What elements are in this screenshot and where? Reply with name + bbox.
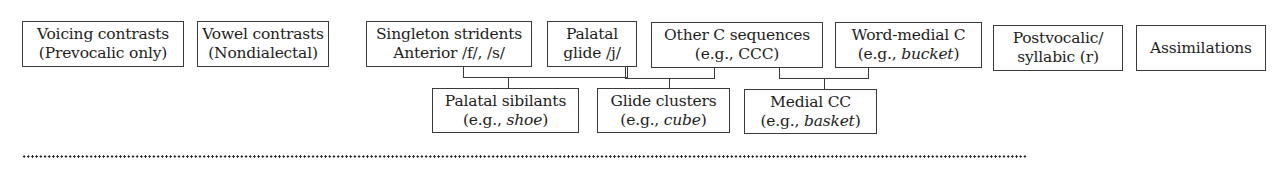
box-singleton-stridents: Singleton stridents Anterior /f/, /s/ — [366, 21, 532, 67]
box-other-c-sequences: Other C sequences (e.g., CCC) — [651, 22, 823, 68]
example-word: bucket — [901, 45, 953, 63]
box-label-line2: Anterior /f/, /s/ — [393, 44, 505, 63]
label-prefix: (e.g., — [620, 111, 663, 129]
label-prefix: (e.g., — [463, 111, 506, 129]
dotted-separator — [22, 155, 1027, 158]
label-suffix: ) — [855, 112, 861, 130]
box-assimilations: Assimilations — [1136, 25, 1266, 71]
box-label-line2: (Nondialectal) — [208, 44, 318, 63]
box-palatal-sibilants: Palatal sibilants (e.g., shoe) — [432, 88, 579, 133]
box-palatal-glide: Palatal glide /j/ — [547, 21, 637, 67]
box-label-line1: Word-medial C — [852, 26, 966, 45]
label-suffix: ) — [953, 45, 959, 63]
box-label-line1: Palatal — [566, 25, 618, 44]
label-suffix: ) — [542, 111, 548, 129]
box-label-line2: (e.g., shoe) — [463, 111, 548, 130]
box-label-line2: (Prevocalic only) — [39, 44, 167, 63]
label-prefix: (e.g., — [760, 112, 803, 130]
connector — [463, 77, 628, 78]
example-word: basket — [804, 112, 855, 130]
box-medial-cc: Medial CC (e.g., basket) — [744, 89, 877, 134]
box-label-line2: syllabic (r) — [1017, 48, 1098, 67]
box-label-line1: Medial CC — [770, 93, 851, 112]
box-label-line1: Vowel contrasts — [202, 25, 323, 44]
box-voicing-contrasts: Voicing contrasts (Prevocalic only) — [22, 21, 184, 67]
box-label-line1: Palatal sibilants — [445, 92, 566, 111]
box-label-line2: (e.g., cube) — [620, 111, 706, 130]
box-label-line1: Other C sequences — [664, 26, 810, 45]
box-label-line1: Postvocalic/ — [1013, 29, 1104, 48]
label-suffix: ) — [701, 111, 707, 129]
connector — [824, 78, 825, 89]
box-label-line1: Singleton stridents — [376, 25, 522, 44]
example-word: cube — [664, 111, 701, 129]
box-glide-clusters: Glide clusters (e.g., cube) — [597, 88, 730, 133]
box-word-medial-c: Word-medial C (e.g., bucket) — [835, 22, 982, 68]
box-label-line2: (e.g., CCC) — [695, 45, 779, 64]
example-word: shoe — [506, 111, 542, 129]
box-label-line2: (e.g., basket) — [760, 112, 860, 131]
box-label-line1: Voicing contrasts — [37, 25, 169, 44]
box-vowel-contrasts: Vowel contrasts (Nondialectal) — [197, 21, 329, 67]
connector — [508, 77, 509, 88]
label-prefix: (e.g., — [858, 45, 901, 63]
box-label-line2: glide /j/ — [563, 44, 620, 63]
box-postvocalic-syllabic-r: Postvocalic/ syllabic (r) — [993, 25, 1123, 71]
box-label-line1: Assimilations — [1150, 39, 1252, 58]
box-label-line2: (e.g., bucket) — [858, 45, 960, 64]
box-label-line1: Glide clusters — [611, 92, 717, 111]
